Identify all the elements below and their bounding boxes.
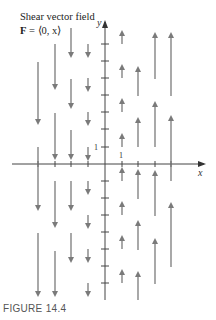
y-tick-label-1: 1	[94, 143, 98, 152]
vector-field-plot: x y 1 1	[0, 0, 216, 320]
y-axis-label: y	[96, 17, 102, 28]
vector-arrows-negative	[38, 28, 88, 294]
figure: x y 1 1 Shear vector field F = ⟨0, x⟩ FI…	[0, 0, 216, 320]
figure-title: Shear vector field	[20, 11, 95, 22]
formula-expression: = ⟨0, x⟩	[26, 25, 61, 36]
vector-arrows-positive	[122, 33, 171, 300]
x-tick-label-1: 1	[119, 151, 123, 160]
figure-caption: FIGURE 14.4	[3, 303, 66, 314]
figure-formula: F = ⟨0, x⟩	[20, 24, 61, 36]
x-axis-label: x	[197, 167, 203, 178]
